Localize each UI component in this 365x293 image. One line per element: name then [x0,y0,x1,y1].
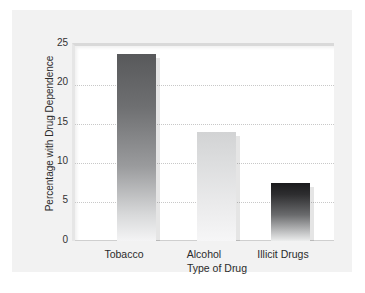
y-tick-label: 5 [46,195,68,205]
y-tick-label: 20 [46,77,68,87]
y-tick-label: 25 [46,38,68,48]
x-axis-title: Type of Drug [162,262,272,274]
gridline-20 [75,85,334,87]
y-tick-label: 15 [46,117,68,127]
bar-fill [197,132,236,241]
y-tick-label: 10 [46,156,68,166]
x-tick-label-illicit-drugs: Illicit Drugs [238,248,328,260]
bar-alcohol[interactable] [197,132,236,241]
x-tick-label-alcohol: Alcohol [166,248,242,260]
bar-fill [271,183,310,242]
bar-fill [117,54,156,241]
y-axis-tick-labels: 25 20 15 10 5 0 [42,10,68,293]
y-tick-label: 0 [46,235,68,245]
gridline-15 [75,124,334,126]
chart-card: Percentage with Drug Dependence 25 20 15… [12,10,352,272]
bar-illicit-drugs[interactable] [271,183,310,242]
bar-tobacco[interactable] [117,54,156,241]
plot-area [72,43,334,241]
x-tick-label-tobacco: Tobacco [86,248,162,260]
